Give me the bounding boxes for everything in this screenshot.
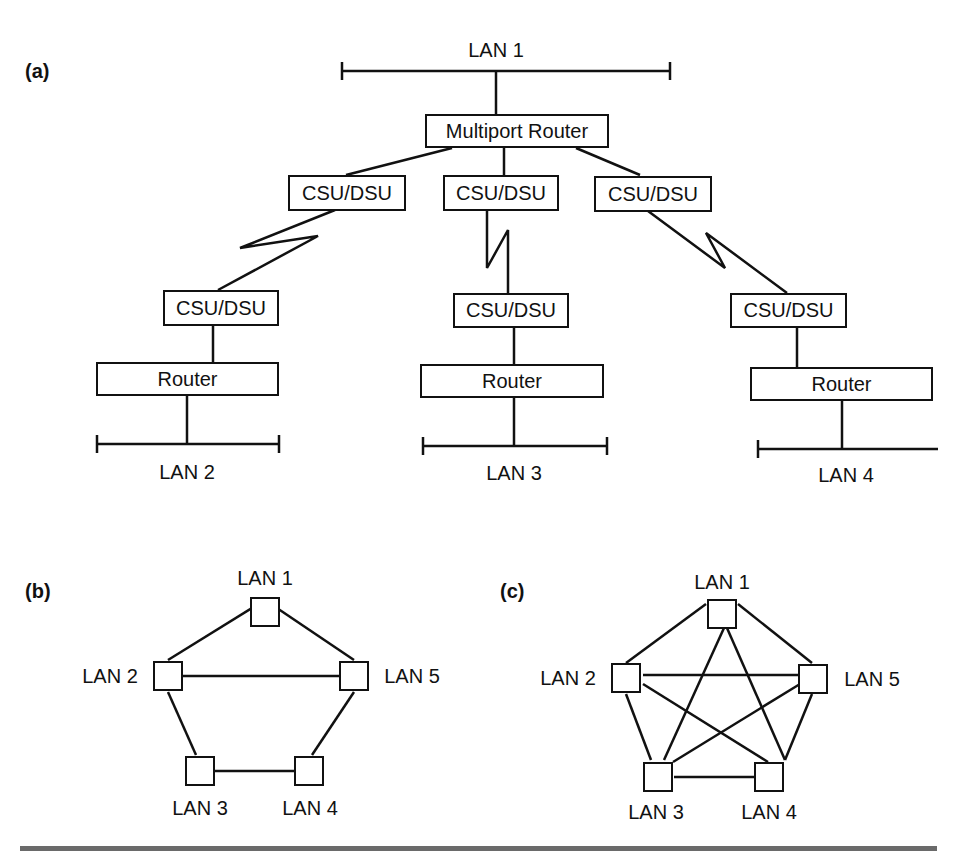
- bottom-rule: [20, 846, 937, 851]
- remote-csu-dsu-left: CSU/DSU: [288, 175, 406, 211]
- mesh-node-lan5: [798, 664, 828, 694]
- ring-node-lan2: [153, 661, 183, 691]
- mesh-node-lan1: [707, 599, 737, 629]
- ring-label-lan5: LAN 5: [384, 665, 440, 688]
- router-lan3: Router: [420, 364, 604, 398]
- lan4-label: LAN 4: [818, 464, 874, 487]
- local-csu-dsu-lan2: CSU/DSU: [163, 290, 279, 326]
- local-csu-dsu-lan4: CSU/DSU: [730, 293, 847, 328]
- panel-label-c: (c): [500, 580, 524, 603]
- ring-label-lan3: LAN 3: [172, 797, 228, 820]
- mesh-label-lan2: LAN 2: [540, 667, 596, 690]
- router-lan4: Router: [750, 367, 933, 401]
- ring-node-lan4: [294, 756, 324, 786]
- mesh-node-lan3: [643, 762, 673, 792]
- ring-label-lan2: LAN 2: [82, 665, 138, 688]
- panel-label-a: (a): [25, 60, 49, 83]
- panel-label-b: (b): [25, 580, 51, 603]
- mesh-label-lan3: LAN 3: [628, 801, 684, 824]
- mesh-label-lan4: LAN 4: [741, 801, 797, 824]
- ring-node-lan3: [185, 756, 215, 786]
- lan2-label: LAN 2: [159, 461, 215, 484]
- ring-node-lan5: [339, 661, 369, 691]
- multiport-router: Multiport Router: [425, 114, 609, 148]
- ring-label-lan1: LAN 1: [237, 567, 293, 590]
- mesh-node-lan4: [754, 762, 784, 792]
- ring-label-lan4: LAN 4: [282, 797, 338, 820]
- mesh-label-lan5: LAN 5: [844, 668, 900, 691]
- mesh-label-lan1: LAN 1: [694, 571, 750, 594]
- ring-node-lan1: [250, 597, 280, 627]
- lan3-label: LAN 3: [486, 462, 542, 485]
- remote-csu-dsu-middle: CSU/DSU: [443, 175, 559, 211]
- lan1-label: LAN 1: [468, 39, 524, 62]
- mesh-node-lan2: [611, 663, 641, 693]
- router-lan2: Router: [96, 362, 279, 396]
- remote-csu-dsu-right: CSU/DSU: [594, 176, 712, 212]
- local-csu-dsu-lan3: CSU/DSU: [453, 293, 569, 328]
